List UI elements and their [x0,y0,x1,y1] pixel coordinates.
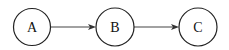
edge-a-to-b [51,24,97,30]
diagram-canvas: A B C [0,0,229,50]
node-a-label: A [27,20,38,35]
node-b-label: B [110,20,119,35]
node-a: A [14,9,51,46]
edge-b-to-c [134,24,179,30]
node-c-label: C [193,20,202,35]
node-b: B [96,8,134,46]
node-c: C [179,8,217,46]
